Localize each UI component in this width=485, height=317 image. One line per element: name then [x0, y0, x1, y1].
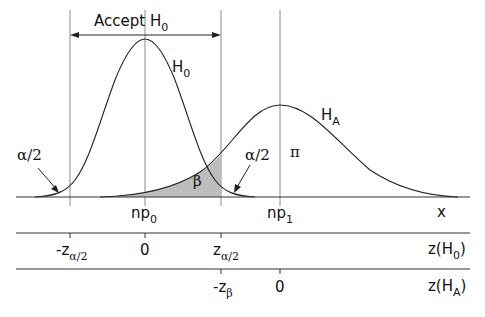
arrowhead-left-icon	[70, 32, 79, 38]
h0-curve-label: H0	[172, 60, 190, 75]
alpha-right-arrowhead-icon	[234, 184, 241, 193]
power-label: π	[290, 145, 300, 160]
z-h0-axis-label: z(H0)	[428, 242, 466, 257]
alpha-left-label: α/2	[17, 148, 42, 163]
x-tick-np0: np0	[131, 206, 157, 221]
z-ha-tick-neg-z-beta: -zβ	[213, 280, 233, 295]
alpha-right-pointer	[236, 165, 250, 189]
beta-label: β	[193, 174, 202, 189]
diagram-canvas	[0, 0, 485, 317]
alpha-left-arrowhead-icon	[51, 185, 59, 193]
z-ha-axis-label: z(HA)	[428, 279, 466, 294]
z-h0-tick-neg-z-alpha: -zα/2	[56, 243, 87, 258]
accept-h0-label: Accept H0	[94, 14, 168, 29]
x-tick-np1: np1	[267, 206, 293, 221]
beta-region	[100, 155, 221, 197]
z-ha-tick-zero-label: 0	[275, 280, 285, 295]
z-h0-tick-zero-label: 0	[140, 243, 150, 258]
arrowhead-right-icon	[212, 32, 221, 38]
alpha-right-label: α/2	[245, 148, 270, 163]
ha-curve	[100, 105, 458, 197]
z-h0-tick-z-alpha: zα/2	[213, 243, 239, 258]
ha-curve-label: HA	[321, 108, 340, 123]
x-axis-label: x	[437, 205, 446, 220]
